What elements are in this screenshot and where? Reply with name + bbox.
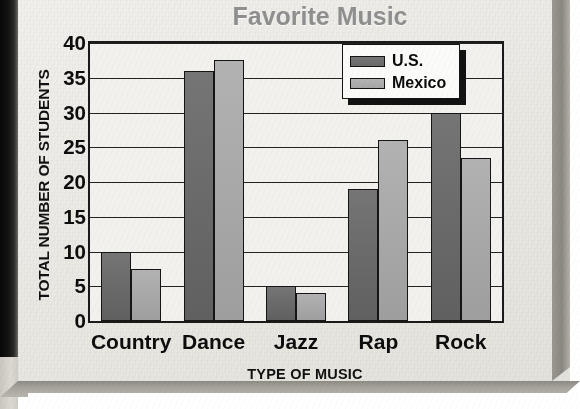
x-axis-title: TYPE OF MUSIC [205, 366, 405, 382]
bar-rap-mexico [378, 140, 408, 321]
y-tick-label-40: 40 [46, 33, 86, 54]
bar-dance-mexico [214, 60, 244, 321]
x-tick-label-rock: Rock [420, 330, 502, 354]
chart-title: Favorite Music [190, 2, 450, 31]
page-bevel-right [552, 0, 570, 381]
bar-dance-us [184, 71, 214, 321]
legend-label-us: U.S. [392, 53, 423, 69]
x-tick-label-rap: Rap [337, 330, 419, 354]
chart-legend: U.S. Mexico [342, 44, 460, 99]
x-tick-label-country: Country [90, 330, 172, 354]
page-bevel-mask [28, 393, 580, 409]
legend-entry-mexico: Mexico [350, 72, 459, 94]
x-tick-label-jazz: Jazz [255, 330, 337, 354]
scanned-chart-page: Favorite Music TOTAL NUMBER OF STUDENTS … [0, 0, 580, 409]
legend-entry-us: U.S. [350, 50, 459, 72]
legend-label-mexico: Mexico [392, 75, 446, 91]
bar-country-mexico [131, 269, 161, 321]
bar-jazz-us [266, 286, 296, 321]
y-tick-label-30: 30 [46, 103, 86, 124]
y-tick-label-20: 20 [46, 172, 86, 193]
y-tick-label-25: 25 [46, 137, 86, 158]
bar-jazz-mexico [296, 293, 326, 321]
bar-rap-us [348, 189, 378, 321]
y-tick-label-5: 5 [46, 276, 86, 297]
legend-swatch-mexico-icon [350, 78, 385, 89]
bar-rock-mexico [461, 158, 491, 321]
scan-gutter-shadow [0, 0, 18, 357]
bar-rock-us [431, 113, 461, 322]
y-tick-label-0: 0 [46, 311, 86, 332]
bar-country-us [101, 252, 131, 322]
y-tick-label-35: 35 [46, 68, 86, 89]
y-tick-label-15: 15 [46, 207, 86, 228]
x-tick-label-dance: Dance [172, 330, 254, 354]
y-tick-label-10: 10 [46, 242, 86, 263]
legend-swatch-us-icon [350, 56, 385, 67]
